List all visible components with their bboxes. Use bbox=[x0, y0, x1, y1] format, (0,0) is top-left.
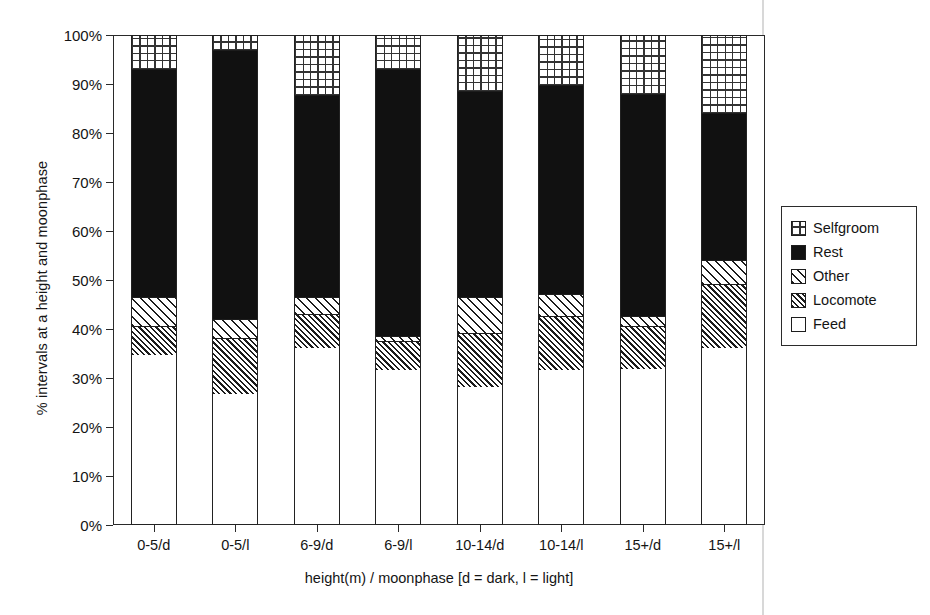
legend-label: Feed bbox=[813, 316, 846, 332]
bar-segment-locomote bbox=[458, 333, 502, 387]
y-tick-mark bbox=[106, 182, 113, 183]
y-tick-mark bbox=[106, 378, 113, 379]
legend-swatch-locomote-icon bbox=[791, 293, 806, 308]
bar-segment-feed bbox=[702, 348, 746, 524]
y-tick-label: 80% bbox=[0, 125, 102, 142]
bar-segment-other bbox=[295, 297, 339, 314]
y-tick-mark bbox=[106, 35, 113, 36]
bar-segment-feed bbox=[295, 348, 339, 524]
x-tick-mark bbox=[317, 525, 318, 532]
legend-swatch-rest-icon bbox=[791, 245, 806, 260]
bar-segment-locomote bbox=[376, 341, 420, 370]
bar-segment-other bbox=[621, 316, 665, 326]
bar-segment-feed bbox=[132, 355, 176, 524]
bar-segment-feed bbox=[539, 370, 583, 524]
legend-label: Locomote bbox=[813, 292, 877, 308]
bar-segment-feed bbox=[458, 387, 502, 524]
y-tick-label: 90% bbox=[0, 76, 102, 93]
bar-segment-selfgroom bbox=[132, 35, 176, 69]
stacked-bar bbox=[457, 35, 503, 525]
y-tick-label: 50% bbox=[0, 272, 102, 289]
y-tick-mark bbox=[106, 280, 113, 281]
bar-segment-rest bbox=[132, 69, 176, 296]
y-tick-label: 60% bbox=[0, 223, 102, 240]
stacked-bar bbox=[131, 35, 177, 525]
stacked-bar bbox=[212, 35, 258, 525]
bar-segment-rest bbox=[539, 85, 583, 294]
bar-segment-other bbox=[132, 297, 176, 326]
plot-area bbox=[113, 35, 765, 525]
legend-label: Other bbox=[813, 268, 849, 284]
x-tick-label: 15+/l bbox=[664, 537, 784, 553]
bar-segment-rest bbox=[213, 50, 257, 319]
y-tick-mark bbox=[106, 427, 113, 428]
legend-swatch-selfgroom-icon bbox=[791, 221, 806, 236]
bar-segment-selfgroom bbox=[621, 35, 665, 94]
chart-legend: SelfgroomRestOtherLocomoteFeed bbox=[781, 206, 917, 346]
bar-segment-selfgroom bbox=[702, 35, 746, 113]
y-tick-label: 30% bbox=[0, 370, 102, 387]
y-tick-mark bbox=[106, 84, 113, 85]
legend-item-other[interactable]: Other bbox=[791, 264, 908, 288]
legend-item-rest[interactable]: Rest bbox=[791, 240, 908, 264]
bar-segment-other bbox=[539, 294, 583, 316]
legend-label: Rest bbox=[813, 244, 843, 260]
y-tick-mark bbox=[106, 133, 113, 134]
x-axis-title: height(m) / moonphase [d = dark, l = lig… bbox=[113, 570, 765, 586]
bar-segment-feed bbox=[376, 370, 420, 524]
stacked-bar bbox=[294, 35, 340, 525]
y-tick-label: 70% bbox=[0, 174, 102, 191]
y-tick-mark bbox=[106, 525, 113, 526]
bar-segment-selfgroom bbox=[376, 35, 420, 69]
x-tick-mark bbox=[480, 525, 481, 532]
bar-segment-selfgroom bbox=[213, 35, 257, 50]
bar-segment-rest bbox=[621, 94, 665, 317]
bar-segment-locomote bbox=[621, 326, 665, 369]
bar-segment-other bbox=[213, 319, 257, 339]
x-tick-mark bbox=[398, 525, 399, 532]
y-tick-label: 20% bbox=[0, 419, 102, 436]
stacked-bar bbox=[538, 35, 584, 525]
x-tick-mark bbox=[154, 525, 155, 532]
bar-segment-locomote bbox=[295, 314, 339, 348]
chart-figure: % intervals at a height and moonphase 0%… bbox=[0, 0, 930, 615]
bar-segment-feed bbox=[621, 369, 665, 525]
legend-item-selfgroom[interactable]: Selfgroom bbox=[791, 216, 908, 240]
legend-swatch-other-icon bbox=[791, 269, 806, 284]
bar-segment-selfgroom bbox=[539, 35, 583, 85]
bar-segment-feed bbox=[213, 394, 257, 524]
stacked-bar bbox=[620, 35, 666, 525]
y-tick-label: 0% bbox=[0, 517, 102, 534]
bar-segment-rest bbox=[295, 95, 339, 297]
bar-segment-locomote bbox=[702, 284, 746, 348]
legend-swatch-feed-icon bbox=[791, 317, 806, 332]
y-tick-label: 40% bbox=[0, 321, 102, 338]
legend-label: Selfgroom bbox=[813, 220, 879, 236]
bar-segment-rest bbox=[376, 69, 420, 336]
bar-segment-locomote bbox=[132, 326, 176, 355]
stacked-bar bbox=[701, 35, 747, 525]
legend-item-feed[interactable]: Feed bbox=[791, 312, 908, 336]
bar-segment-rest bbox=[702, 113, 746, 260]
x-tick-mark bbox=[724, 525, 725, 532]
bar-segment-locomote bbox=[539, 316, 583, 370]
bar-segment-selfgroom bbox=[295, 35, 339, 95]
x-tick-mark bbox=[643, 525, 644, 532]
bar-segment-locomote bbox=[213, 338, 257, 394]
bar-segment-rest bbox=[458, 91, 502, 296]
y-tick-mark bbox=[106, 231, 113, 232]
x-tick-mark bbox=[561, 525, 562, 532]
y-tick-label: 100% bbox=[0, 27, 102, 44]
x-tick-mark bbox=[235, 525, 236, 532]
y-tick-mark bbox=[106, 329, 113, 330]
legend-item-locomote[interactable]: Locomote bbox=[791, 288, 908, 312]
stacked-bar bbox=[375, 35, 421, 525]
bar-segment-other bbox=[458, 297, 502, 334]
y-tick-mark bbox=[106, 476, 113, 477]
bar-segment-selfgroom bbox=[458, 35, 502, 91]
y-tick-label: 10% bbox=[0, 468, 102, 485]
bar-segment-other bbox=[702, 260, 746, 284]
